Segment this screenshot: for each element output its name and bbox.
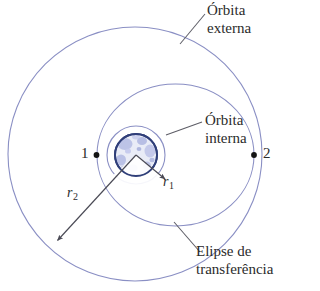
label-inner-orbit-line1: Órbita [205, 112, 247, 130]
label-outer-orbit-line2: externa [207, 20, 251, 38]
label-radius-outer: r2 [67, 185, 78, 202]
label-point-2: 2 [263, 145, 271, 162]
label-point-1: 1 [81, 145, 89, 162]
label-radius-outer-subscript: 2 [72, 191, 78, 202]
label-transfer-line1: Elipse de [196, 243, 273, 261]
label-inner-orbit: Órbita interna [205, 112, 247, 147]
label-transfer-ellipse: Elipse de transferência [196, 243, 273, 278]
label-outer-orbit: Órbita externa [207, 2, 251, 37]
leader-line-inner-orbit [166, 122, 202, 135]
label-transfer-line2: transferência [196, 261, 273, 279]
label-outer-orbit-line1: Órbita [207, 2, 251, 20]
label-radius-inner-subscript: 1 [168, 180, 174, 191]
label-radius-inner: r1 [163, 174, 174, 191]
point-2-marker [251, 152, 257, 158]
label-inner-orbit-line2: interna [205, 130, 247, 148]
point-1-marker [94, 152, 100, 158]
leader-line-outer-orbit [180, 14, 205, 44]
